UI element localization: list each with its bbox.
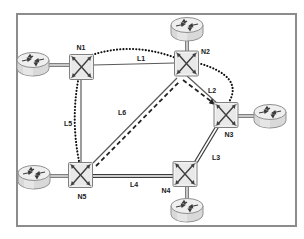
link-label-l6: L6 bbox=[118, 109, 126, 116]
node-label-n5: N5 bbox=[78, 193, 87, 200]
router-icon-left-top bbox=[17, 53, 49, 77]
node-label-n2: N2 bbox=[201, 48, 210, 55]
diagram-canvas: N1 N2 N3 N4 N5 L1 L2 L3 L4 L5 L6 bbox=[0, 0, 304, 239]
node-label-n3: N3 bbox=[225, 131, 234, 138]
router-icon-bottom bbox=[171, 199, 203, 223]
switch-n4 bbox=[173, 162, 197, 187]
node-label-n4: N4 bbox=[162, 187, 171, 194]
router-icon-right bbox=[254, 105, 286, 129]
link-label-l4: L4 bbox=[130, 181, 138, 188]
router-icon-left-bottom bbox=[18, 166, 50, 190]
switch-n1 bbox=[70, 55, 94, 80]
network-diagram: N1 N2 N3 N4 N5 L1 L2 L3 L4 L5 L6 bbox=[0, 0, 304, 239]
router-icon-top bbox=[171, 18, 203, 42]
node-label-n1: N1 bbox=[77, 44, 86, 51]
switch-n3 bbox=[214, 103, 238, 128]
switch-n2 bbox=[175, 51, 199, 76]
link-label-l2: L2 bbox=[208, 87, 216, 94]
link-label-l3: L3 bbox=[212, 154, 220, 161]
switch-n5 bbox=[69, 163, 93, 188]
link-label-l1: L1 bbox=[137, 55, 145, 62]
link-label-l5: L5 bbox=[64, 120, 72, 127]
